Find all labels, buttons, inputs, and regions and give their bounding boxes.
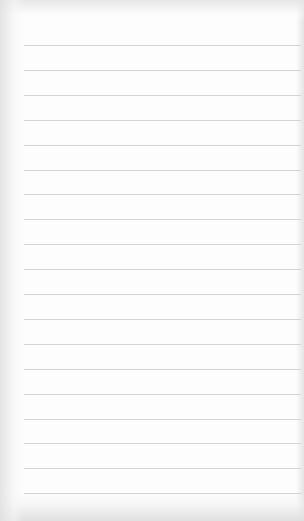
lined-paper — [0, 0, 304, 521]
ruled-line — [24, 269, 301, 270]
ruled-line — [24, 219, 301, 220]
ruled-line — [24, 419, 301, 420]
ruled-line — [24, 394, 301, 395]
ruled-line — [24, 120, 301, 121]
ruled-line — [24, 70, 301, 71]
ruled-line — [24, 319, 301, 320]
ruled-line — [24, 344, 301, 345]
ruled-line — [24, 244, 301, 245]
ruled-line — [24, 369, 301, 370]
ruled-line — [24, 170, 301, 171]
ruled-line — [24, 493, 301, 494]
ruled-line — [24, 468, 301, 469]
ruled-line — [24, 443, 301, 444]
ruled-line — [24, 95, 301, 96]
ruled-line — [24, 194, 301, 195]
ruled-line — [24, 294, 301, 295]
ruled-line — [24, 145, 301, 146]
ruled-line — [24, 45, 301, 46]
